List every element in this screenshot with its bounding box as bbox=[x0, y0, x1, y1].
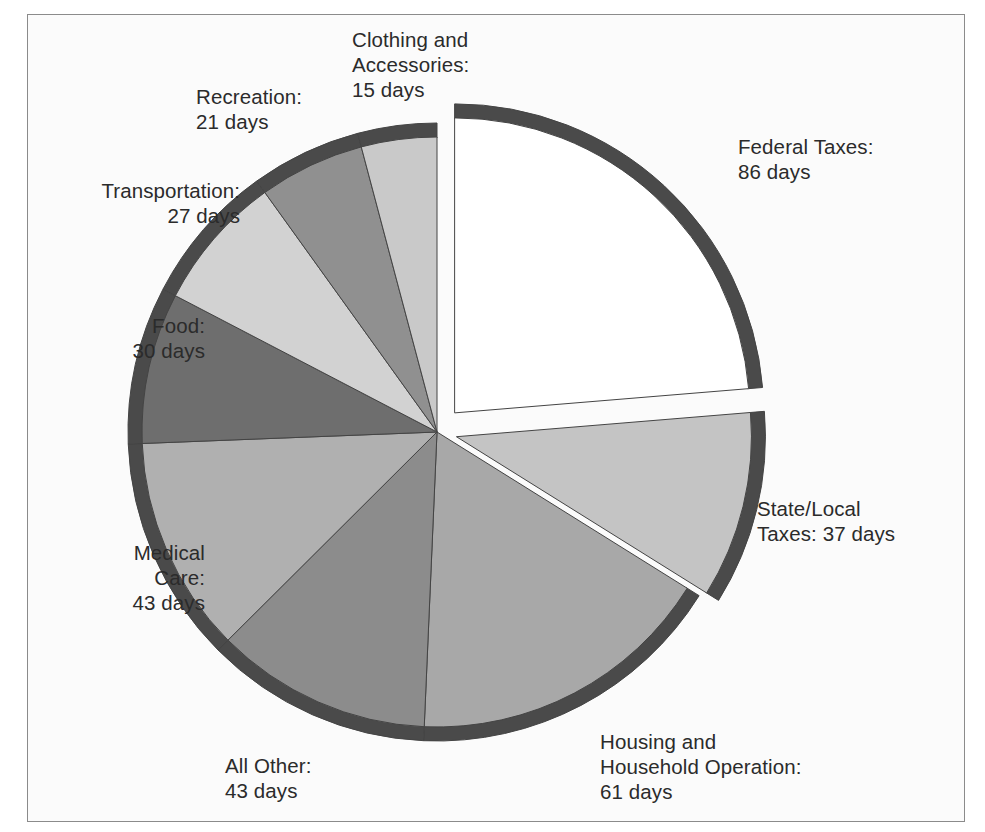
slice-label-medical-care: Medical Care: 43 days bbox=[30, 540, 205, 615]
pie-chart bbox=[0, 0, 985, 832]
slice-label-food: Food: 30 days bbox=[40, 313, 205, 363]
slice-label-state-local-taxes: State/Local Taxes: 37 days bbox=[757, 496, 982, 546]
pie-slice-face bbox=[455, 118, 749, 413]
pie-slice-federal-taxes[interactable] bbox=[455, 104, 763, 413]
chart-page: Clothing and Accessories: 15 days Recrea… bbox=[0, 0, 985, 832]
slice-label-transportation: Transportation: 27 days bbox=[40, 178, 240, 228]
slice-label-federal-taxes: Federal Taxes: 86 days bbox=[738, 134, 958, 184]
slice-label-housing-and-household-operation: Housing and Household Operation: 61 days bbox=[600, 729, 900, 804]
slice-label-all-other: All Other: 43 days bbox=[225, 753, 425, 803]
slice-label-recreation: Recreation: 21 days bbox=[196, 84, 386, 134]
